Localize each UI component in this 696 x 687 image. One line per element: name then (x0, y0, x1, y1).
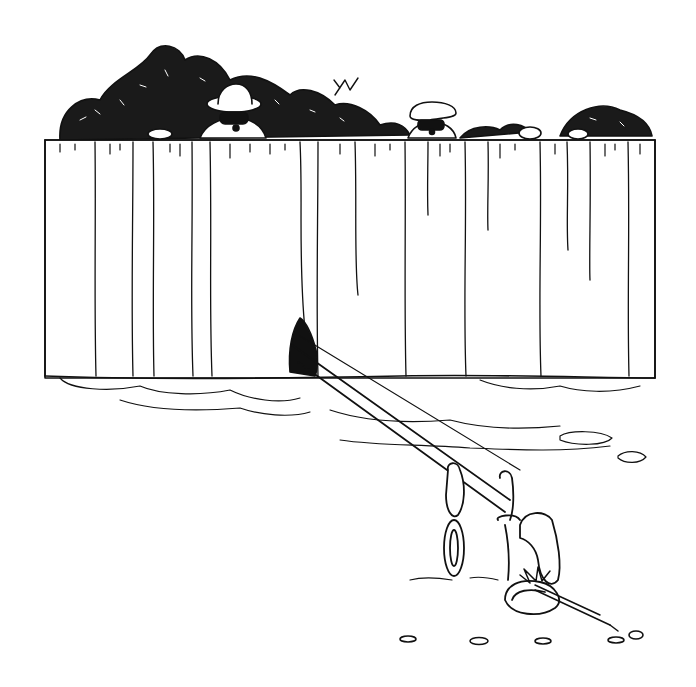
plank-fence (45, 140, 655, 378)
illustration (0, 0, 696, 687)
figure-flat-cap (408, 102, 456, 138)
trap-clamp (505, 513, 560, 614)
bushes (60, 46, 652, 140)
pebbles (400, 631, 643, 645)
